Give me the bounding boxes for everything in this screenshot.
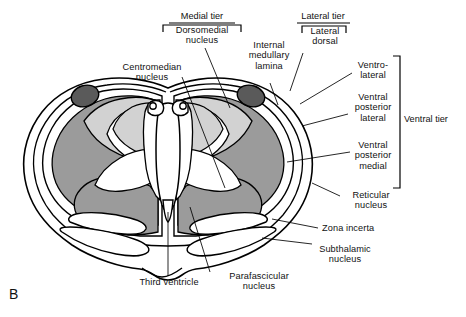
ventral-posterior-medial-label: Ventral posterior medial <box>348 140 398 171</box>
medial-tier-label: Medial tier <box>169 11 235 21</box>
third-ventricle-slit <box>156 103 180 212</box>
third-ventricle-label: Third ventricle <box>131 277 207 287</box>
parafascicular-nucleus-label: Parafascicular nucleus <box>220 271 298 292</box>
reticular-nucleus-label: Reticular nucleus <box>342 190 400 211</box>
ventral-tier-label: Ventral tier <box>404 114 462 124</box>
ventro-lateral-label: Ventro- lateral <box>352 60 394 81</box>
lateral-dorsal-label: Lateral dorsal <box>302 26 348 47</box>
dorsomedial-nucleus-label: Dorsomedial nucleus <box>163 25 241 46</box>
ventral-posterior-lateral-label: Ventral posterior lateral <box>348 92 398 123</box>
leader-reticular-nucleus <box>312 183 340 196</box>
zona-incerta-label: Zona incerta <box>322 223 402 233</box>
centromedian-nucleus-label: Centromedian nucleus <box>114 62 190 83</box>
left-paraventricular-dot <box>150 103 156 109</box>
lateral-tier-label: Lateral tier <box>295 11 351 21</box>
panel-letter-b: B <box>9 286 18 302</box>
internal-medullary-lamina-label: Internal medullary lamina <box>238 40 300 71</box>
leader-ventral-posterior-lateral <box>302 114 348 126</box>
right-paraventricular-dot <box>180 103 186 109</box>
thalamus-diagram-figure: Medial tier Dorsomedial nucleus Centrome… <box>0 0 466 317</box>
subthalamic-nucleus-label: Subthalamic nucleus <box>310 244 380 265</box>
leader-ventro-lateral <box>300 73 352 104</box>
